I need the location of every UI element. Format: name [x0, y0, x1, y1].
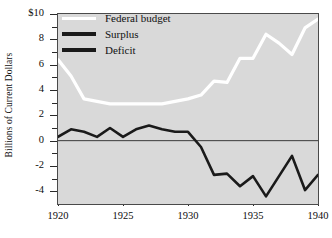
- y-axis-tick-label: -4: [0, 184, 44, 195]
- legend-swatch: [62, 32, 96, 36]
- x-axis-tick-label: 1920: [38, 210, 78, 221]
- chart-figure: Billions of Current Dollars $1086420-2-4…: [0, 0, 332, 238]
- y-axis-tick-label: 4: [0, 83, 44, 94]
- y-axis-tick: [50, 115, 57, 116]
- y-axis-tick-label: 0: [0, 134, 44, 145]
- legend-item: Surplus: [62, 26, 232, 42]
- chart-legend: Federal budgetSurplusDeficit: [62, 10, 232, 58]
- x-axis-tick-label: 1940: [298, 210, 332, 221]
- legend-item: Federal budget: [62, 10, 232, 26]
- y-axis-tick-label: -2: [0, 159, 44, 170]
- legend-label: Deficit: [105, 44, 136, 56]
- y-axis-tick-label: 6: [0, 58, 44, 69]
- legend-item: Deficit: [62, 42, 232, 58]
- y-axis-tick: [50, 65, 57, 66]
- legend-swatch: [62, 48, 96, 52]
- y-axis-tick: [50, 14, 57, 15]
- data-series-line: [58, 125, 318, 196]
- y-axis-tick: [50, 90, 57, 91]
- y-axis-tick: [50, 39, 57, 40]
- legend-label: Surplus: [105, 28, 139, 40]
- y-axis-tick-label: $10: [0, 7, 44, 18]
- y-axis-tick: [50, 141, 57, 142]
- y-axis-tick-label: 2: [0, 108, 44, 119]
- x-axis-tick-label: 1930: [168, 210, 208, 221]
- legend-swatch: [62, 17, 96, 20]
- x-axis-tick-label: 1935: [233, 210, 273, 221]
- y-axis-tick: [50, 191, 57, 192]
- y-axis-tick-label: 8: [0, 32, 44, 43]
- legend-label: Federal budget: [105, 12, 171, 24]
- y-axis-tick: [50, 166, 57, 167]
- x-axis-tick-label: 1925: [103, 210, 143, 221]
